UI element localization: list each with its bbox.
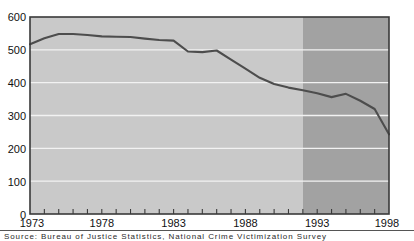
y-tick-label: 600	[8, 11, 26, 23]
y-tick-label: 200	[8, 143, 26, 155]
x-tick-label: 1988	[233, 217, 257, 229]
x-tick-label: 1978	[90, 217, 114, 229]
y-tick-label: 300	[8, 110, 26, 122]
y-tick-label: 100	[8, 176, 26, 188]
x-tick-label: 1993	[305, 217, 329, 229]
y-tick-label: 500	[8, 44, 26, 56]
x-tick-label: 1983	[161, 217, 185, 229]
chart-figure: 0 100 200 300 400 500 600 1973 1978 1983…	[0, 0, 414, 241]
y-axis-tick-labels: 0 100 200 300 400 500 600	[8, 11, 26, 220]
source-caption: Source: Bureau of Justice Statistics, Na…	[4, 232, 410, 241]
x-tick-label: 1973	[20, 217, 44, 229]
line-chart: 0 100 200 300 400 500 600 1973 1978 1983…	[0, 0, 414, 241]
x-tick-label: 1998	[375, 217, 399, 229]
caption-divider	[0, 230, 414, 231]
x-axis-tick-labels: 1973 1978 1983 1988 1993 1998	[20, 217, 399, 229]
y-tick-label: 400	[8, 77, 26, 89]
